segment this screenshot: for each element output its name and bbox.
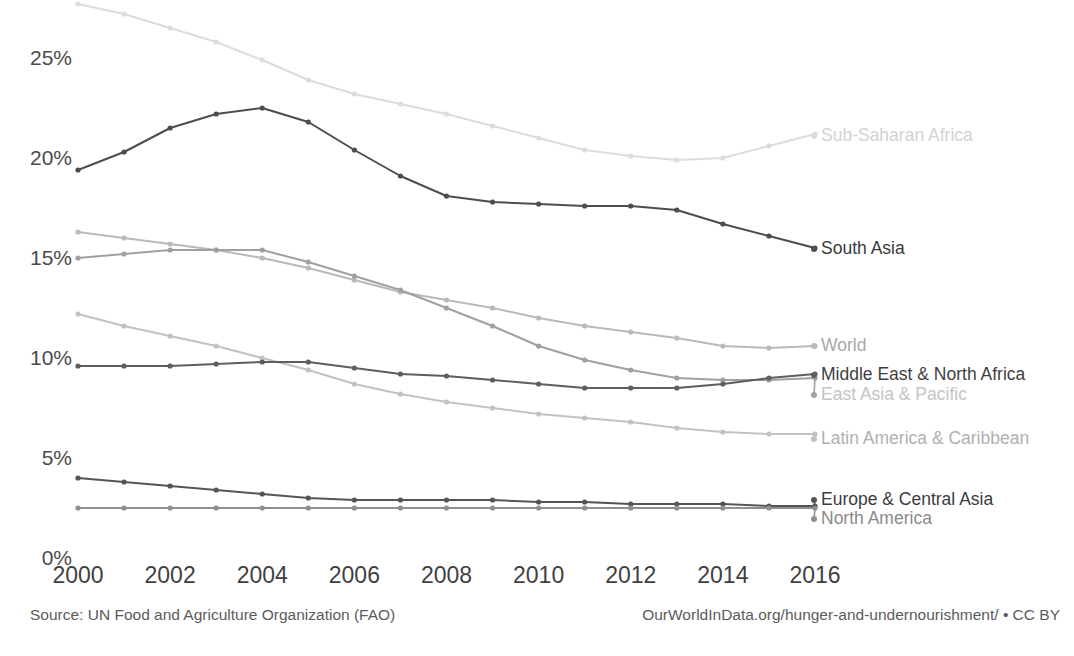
data-point[interactable]: [75, 311, 80, 316]
data-point[interactable]: [582, 499, 587, 504]
data-point[interactable]: [582, 385, 587, 390]
series-label-middle-east-north-africa[interactable]: Middle East & North Africa: [821, 366, 1025, 384]
data-point[interactable]: [214, 487, 219, 492]
data-point[interactable]: [260, 57, 265, 62]
data-point[interactable]: [352, 381, 357, 386]
data-point[interactable]: [75, 363, 80, 368]
data-point[interactable]: [260, 247, 265, 252]
data-point[interactable]: [214, 343, 219, 348]
data-point[interactable]: [582, 147, 587, 152]
data-point[interactable]: [121, 149, 126, 154]
data-point[interactable]: [168, 505, 173, 510]
data-point[interactable]: [75, 475, 80, 480]
data-point[interactable]: [490, 199, 495, 204]
data-point[interactable]: [444, 505, 449, 510]
data-point[interactable]: [260, 491, 265, 496]
data-point[interactable]: [674, 385, 679, 390]
data-point[interactable]: [121, 505, 126, 510]
data-point[interactable]: [214, 247, 219, 252]
series-world[interactable]: [75, 229, 817, 350]
data-point[interactable]: [536, 411, 541, 416]
series-europe-central-asia[interactable]: [75, 475, 817, 508]
data-point[interactable]: [628, 153, 633, 158]
data-point[interactable]: [674, 375, 679, 380]
data-point[interactable]: [720, 221, 725, 226]
data-point[interactable]: [398, 371, 403, 376]
data-point[interactable]: [720, 505, 725, 510]
data-point[interactable]: [720, 381, 725, 386]
data-point[interactable]: [398, 391, 403, 396]
data-point[interactable]: [628, 367, 633, 372]
data-point[interactable]: [582, 415, 587, 420]
data-point[interactable]: [628, 385, 633, 390]
data-point[interactable]: [260, 255, 265, 260]
data-point[interactable]: [352, 273, 357, 278]
data-point[interactable]: [168, 241, 173, 246]
data-point[interactable]: [306, 367, 311, 372]
data-point[interactable]: [490, 497, 495, 502]
data-point[interactable]: [306, 359, 311, 364]
data-point[interactable]: [628, 329, 633, 334]
data-point[interactable]: [121, 11, 126, 16]
data-point[interactable]: [490, 377, 495, 382]
data-point[interactable]: [352, 147, 357, 152]
data-point[interactable]: [168, 247, 173, 252]
data-point[interactable]: [766, 233, 771, 238]
data-point[interactable]: [214, 361, 219, 366]
data-point[interactable]: [490, 323, 495, 328]
data-point[interactable]: [674, 207, 679, 212]
data-point[interactable]: [536, 499, 541, 504]
data-point[interactable]: [674, 425, 679, 430]
data-point[interactable]: [628, 203, 633, 208]
data-point[interactable]: [398, 101, 403, 106]
data-point[interactable]: [168, 125, 173, 130]
data-point[interactable]: [444, 399, 449, 404]
data-point[interactable]: [75, 1, 80, 6]
series-label-latin-america-caribbean[interactable]: Latin America & Caribbean: [821, 430, 1029, 448]
data-point[interactable]: [121, 251, 126, 256]
data-point[interactable]: [720, 343, 725, 348]
data-point[interactable]: [766, 375, 771, 380]
data-point[interactable]: [75, 505, 80, 510]
data-point[interactable]: [490, 305, 495, 310]
data-point[interactable]: [168, 363, 173, 368]
data-point[interactable]: [444, 111, 449, 116]
data-point[interactable]: [352, 91, 357, 96]
data-point[interactable]: [75, 229, 80, 234]
data-point[interactable]: [674, 157, 679, 162]
data-point[interactable]: [306, 259, 311, 264]
data-point[interactable]: [75, 167, 80, 172]
data-point[interactable]: [628, 505, 633, 510]
data-point[interactable]: [398, 497, 403, 502]
data-point[interactable]: [444, 373, 449, 378]
data-point[interactable]: [766, 143, 771, 148]
data-point[interactable]: [121, 363, 126, 368]
series-label-world[interactable]: World: [821, 337, 866, 355]
data-point[interactable]: [168, 483, 173, 488]
data-point[interactable]: [444, 305, 449, 310]
series-label-europe-central-asia[interactable]: Europe & Central Asia: [821, 491, 993, 509]
data-point[interactable]: [168, 25, 173, 30]
data-point[interactable]: [536, 315, 541, 320]
data-point[interactable]: [720, 429, 725, 434]
series-label-east-asia-pacific[interactable]: East Asia & Pacific: [821, 386, 967, 404]
data-point[interactable]: [582, 203, 587, 208]
data-point[interactable]: [352, 505, 357, 510]
data-point[interactable]: [398, 505, 403, 510]
data-point[interactable]: [306, 119, 311, 124]
data-point[interactable]: [75, 255, 80, 260]
data-point[interactable]: [536, 343, 541, 348]
data-point[interactable]: [260, 359, 265, 364]
data-point[interactable]: [766, 431, 771, 436]
data-point[interactable]: [490, 505, 495, 510]
data-point[interactable]: [168, 333, 173, 338]
data-point[interactable]: [444, 193, 449, 198]
data-point[interactable]: [720, 155, 725, 160]
data-point[interactable]: [536, 201, 541, 206]
series-label-south-asia[interactable]: South Asia: [821, 240, 905, 258]
data-point[interactable]: [214, 505, 219, 510]
data-point[interactable]: [582, 323, 587, 328]
data-point[interactable]: [306, 495, 311, 500]
data-point[interactable]: [674, 335, 679, 340]
data-point[interactable]: [536, 135, 541, 140]
